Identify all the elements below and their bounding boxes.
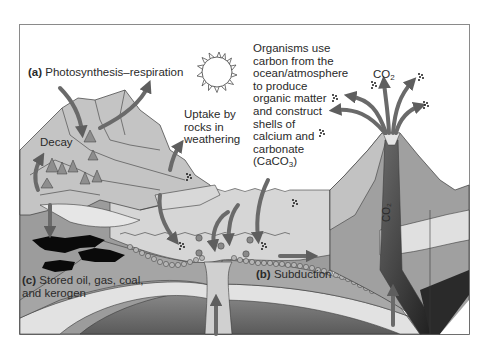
label-c-tag: (c) [22, 274, 36, 286]
label-uptake-line1: Uptake by [184, 108, 240, 121]
label-co2-vertical: CO₂ [381, 203, 394, 222]
label-organisms-line6: and construct [253, 105, 348, 118]
label-organisms-line7: shells of [253, 118, 348, 131]
label-organisms: Organisms use carbon from the ocean/atmo… [253, 42, 348, 172]
label-organisms-line9: carbonate [253, 143, 348, 156]
label-organisms-line3: ocean/atmosphere [253, 67, 348, 80]
label-organisms-line5: organic matter [253, 92, 348, 105]
label-uptake-line2: rocks in [184, 121, 240, 134]
label-organisms-line1: Organisms use [253, 42, 348, 55]
label-organisms-line8: calcium and [253, 130, 348, 143]
label-organisms-line2: carbon from the [253, 55, 348, 68]
label-caco3: (CaCO3) [253, 155, 348, 172]
label-stored-carbon: (c) Stored oil, gas, coal, and kerogen [22, 274, 143, 300]
label-uptake-line3: weathering [184, 133, 240, 146]
label-c-line1: Stored oil, gas, coal, [39, 274, 143, 286]
label-a-tag: (a) [28, 66, 42, 78]
label-photosynthesis: (a) Photosynthesis–respiration [28, 66, 183, 79]
label-b-text: Subduction [274, 268, 332, 280]
label-uptake: Uptake by rocks in weathering [184, 108, 240, 146]
label-subduction: (b) Subduction [256, 268, 331, 281]
label-decay: Decay [40, 136, 73, 149]
carbon-cycle-diagram: (a) Photosynthesis–respiration Decay Upt… [0, 0, 488, 351]
label-a-text: Photosynthesis–respiration [45, 66, 183, 78]
label-c-line2: and kerogen [22, 287, 143, 300]
label-organisms-line4: to produce [253, 80, 348, 93]
label-b-tag: (b) [256, 268, 271, 280]
label-co2-volcano: CO2 [373, 68, 395, 85]
